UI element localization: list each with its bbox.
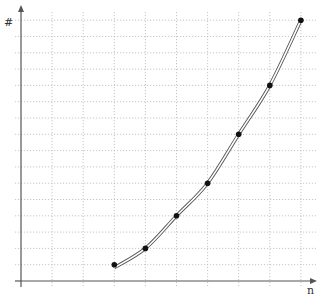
grid-lines <box>15 12 316 287</box>
line-chart: n # <box>0 0 329 300</box>
axes <box>15 5 317 287</box>
data-point-marker <box>174 213 180 219</box>
data-point-marker <box>298 17 304 23</box>
data-point-marker <box>205 180 211 186</box>
data-point-marker <box>267 83 273 89</box>
x-axis-label: n <box>307 284 314 297</box>
data-point-marker <box>236 132 242 138</box>
data-point-marker <box>143 246 149 252</box>
data-point-marker <box>112 262 118 268</box>
y-axis-label: # <box>4 16 13 29</box>
y-axis-arrow-icon <box>18 5 24 12</box>
